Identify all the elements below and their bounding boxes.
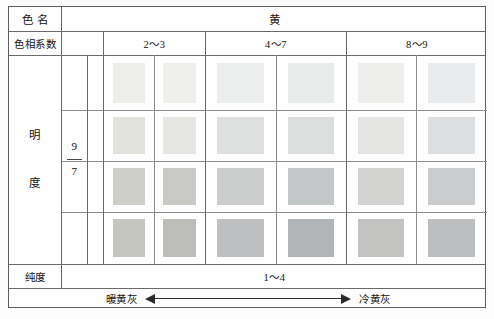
axis-double-arrow <box>145 294 351 304</box>
swatch-fill <box>358 63 404 103</box>
swatch-r3-c1 <box>113 168 145 205</box>
swatch-fill <box>358 168 404 205</box>
swatch-fill <box>358 117 404 154</box>
swatch-r2-c4 <box>288 117 334 154</box>
value-range-dash <box>67 159 82 160</box>
swatch-r1-c4 <box>288 63 334 103</box>
arrow-head-right-icon <box>341 294 351 304</box>
swatch-fill <box>163 117 196 154</box>
swatch-fill <box>288 219 334 257</box>
hue-group-3: 8～9 <box>347 31 487 55</box>
rule-value-range-col <box>87 55 88 264</box>
value-range-9-to-7: 9 7 <box>62 55 87 264</box>
swatch-r3-c5 <box>358 168 404 205</box>
swatch-fill <box>113 117 145 154</box>
swatch-r2-c5 <box>358 117 404 154</box>
swatch-r2-c6 <box>428 117 475 154</box>
value-color-name: 黄 <box>62 7 487 31</box>
swatch-fill <box>163 168 196 205</box>
label-color-name: 色 名 <box>9 7 61 31</box>
swatch-r3-c6 <box>428 168 475 205</box>
swatch-r1-c3 <box>217 63 264 103</box>
label-hue-coefficient: 色相系数 <box>9 31 61 55</box>
swatch-r4-c6 <box>428 219 475 257</box>
swatch-r4-c3 <box>217 219 264 257</box>
swatch-fill <box>163 219 196 257</box>
swatch-fill <box>217 219 264 257</box>
swatch-fill <box>113 63 145 103</box>
swatch-fill <box>113 219 145 257</box>
swatch-r4-c2 <box>163 219 196 257</box>
swatch-fill <box>163 63 196 103</box>
value-range-bottom: 7 <box>72 165 78 179</box>
swatch-fill <box>428 168 475 205</box>
label-value-char-2: 度 <box>29 173 41 195</box>
swatch-r2-c3 <box>217 117 264 154</box>
swatch-r4-c5 <box>358 219 404 257</box>
axis-label-cool: 冷黄灰 <box>359 288 487 309</box>
color-chart-sheet: 色 名 黄 色相系数 2～3 4～7 8～9 明 度 9 7 纯度 1～4 暖黄… <box>0 0 494 319</box>
swatch-fill <box>217 117 264 154</box>
swatch-r2-c2 <box>163 117 196 154</box>
axis-label-warm: 暖黄灰 <box>9 288 137 309</box>
swatch-fill <box>217 63 264 103</box>
label-purity: 纯度 <box>9 264 61 288</box>
value-purity: 1～4 <box>62 264 487 288</box>
swatch-fill <box>358 219 404 257</box>
swatch-r1-c5 <box>358 63 404 103</box>
swatch-r4-c1 <box>113 219 145 257</box>
swatch-grid <box>104 56 487 264</box>
swatch-fill <box>428 117 475 154</box>
swatch-fill <box>288 168 334 205</box>
swatch-fill <box>113 168 145 205</box>
chart-frame: 色 名 黄 色相系数 2～3 4～7 8～9 明 度 9 7 纯度 1～4 暖黄… <box>8 6 486 308</box>
swatch-fill <box>428 63 475 103</box>
swatch-r1-c1 <box>113 63 145 103</box>
arrow-shaft <box>154 298 342 300</box>
swatch-r2-c1 <box>113 117 145 154</box>
value-range-top: 9 <box>72 140 78 154</box>
label-value-char-1: 明 <box>29 125 41 147</box>
swatch-fill <box>288 63 334 103</box>
label-value-axis: 明 度 <box>9 55 61 264</box>
swatch-r3-c3 <box>217 168 264 205</box>
swatch-fill <box>217 168 264 205</box>
swatch-fill <box>428 219 475 257</box>
swatch-r3-c4 <box>288 168 334 205</box>
swatch-r1-c2 <box>163 63 196 103</box>
swatch-r3-c2 <box>163 168 196 205</box>
swatch-fill <box>288 117 334 154</box>
hue-group-2: 4～7 <box>206 31 346 55</box>
warm-cool-axis: 暖黄灰 冷黄灰 <box>9 288 487 309</box>
swatch-r4-c4 <box>288 219 334 257</box>
swatch-r1-c6 <box>428 63 475 103</box>
hue-group-1: 2～3 <box>104 31 205 55</box>
